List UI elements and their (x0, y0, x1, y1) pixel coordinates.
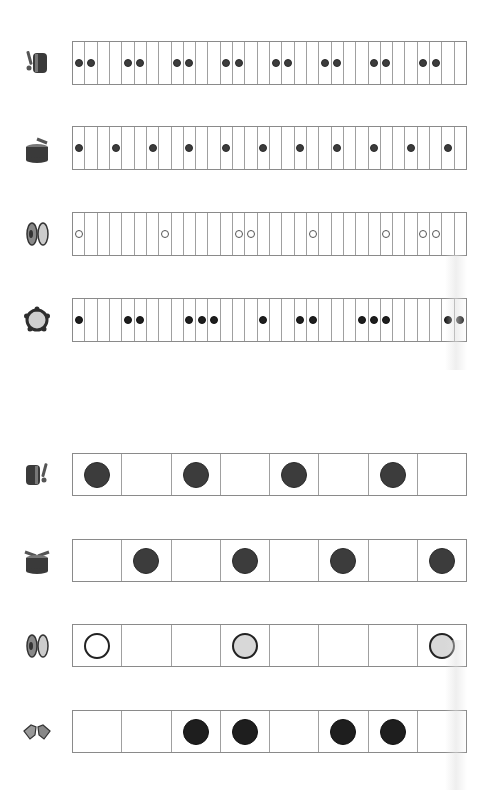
beat-cell (159, 127, 171, 169)
beat-cell (221, 540, 270, 581)
beat-cell (73, 42, 85, 84)
beat-grid (72, 212, 467, 256)
beat-cell (147, 42, 159, 84)
beat-cell (356, 42, 368, 84)
beat-cell (172, 540, 221, 581)
beat-cell (332, 127, 344, 169)
beat-dot-hollow (419, 230, 427, 238)
beat-dot-filled (380, 462, 406, 488)
beat-cell (381, 127, 393, 169)
beat-cell (344, 127, 356, 169)
beat-dot-filled (370, 144, 378, 152)
beat-dot-black (210, 316, 218, 324)
beat-cell (282, 42, 294, 84)
beat-dot-filled (136, 59, 144, 67)
beat-dot-filled (333, 59, 341, 67)
beat-cell (184, 213, 196, 255)
beat-cell (418, 625, 466, 666)
beat-dot-filled (284, 59, 292, 67)
beat-cell (430, 213, 442, 255)
beat-cell (221, 454, 270, 495)
beat-cell (319, 454, 368, 495)
beat-cell (98, 127, 110, 169)
beat-cell (270, 127, 282, 169)
beat-cell (332, 299, 344, 341)
beat-cell (110, 213, 122, 255)
snare-drum-icon (22, 546, 52, 576)
beat-dot-filled (185, 144, 193, 152)
beat-cell (393, 213, 405, 255)
beat-dot-filled (87, 59, 95, 67)
beat-dot-filled (75, 59, 83, 67)
beat-cell (319, 540, 368, 581)
beat-dot-hollow (432, 230, 440, 238)
beat-cell (196, 213, 208, 255)
beat-cell (369, 540, 418, 581)
beat-cell (184, 299, 196, 341)
beat-dot-filled (222, 59, 230, 67)
beat-cell (85, 42, 97, 84)
beat-cell (418, 42, 430, 84)
beat-dot-gray (429, 633, 455, 659)
beat-cell (418, 711, 466, 752)
beat-cell (258, 299, 270, 341)
beat-cell (270, 540, 319, 581)
beat-cell (73, 625, 122, 666)
beat-dot-hollow (382, 230, 390, 238)
beat-cell (369, 625, 418, 666)
beat-cell (455, 127, 466, 169)
beat-dot-hollow (309, 230, 317, 238)
beat-cell (307, 127, 319, 169)
beat-cell (73, 127, 85, 169)
beat-cell (405, 127, 417, 169)
beat-cell (122, 299, 134, 341)
beat-cell (73, 454, 122, 495)
beat-dot-filled (185, 59, 193, 67)
beat-cell (159, 213, 171, 255)
beat-cell (332, 42, 344, 84)
beat-cell (442, 299, 454, 341)
beat-cell (208, 299, 220, 341)
beat-cell (405, 213, 417, 255)
beat-dot-black (75, 316, 83, 324)
beat-cell (221, 625, 270, 666)
beat-dot-hollow (247, 230, 255, 238)
beat-cell (405, 42, 417, 84)
beat-cell (245, 127, 257, 169)
beat-cell (147, 299, 159, 341)
beat-cell (455, 213, 466, 255)
beat-dot-filled (333, 144, 341, 152)
beat-dot-filled (382, 59, 390, 67)
beat-cell (332, 213, 344, 255)
beat-cell (369, 42, 381, 84)
beat-cell (85, 127, 97, 169)
beat-cell (135, 299, 147, 341)
beat-dot-filled (370, 59, 378, 67)
beat-grid (72, 453, 467, 496)
beat-cell (307, 213, 319, 255)
beat-cell (110, 299, 122, 341)
beat-cell (122, 213, 134, 255)
beat-dot-filled (235, 59, 243, 67)
beat-cell (393, 127, 405, 169)
beat-dot-black (136, 316, 144, 324)
beat-cell (356, 213, 368, 255)
beat-cell (172, 625, 221, 666)
beat-cell (208, 127, 220, 169)
beat-grid (72, 624, 467, 667)
beat-dot-black (198, 316, 206, 324)
beat-cell (122, 625, 171, 666)
beat-cell (381, 299, 393, 341)
beat-cell (73, 540, 122, 581)
beat-dot-hollow (235, 230, 243, 238)
beat-cell (319, 711, 368, 752)
beat-dot-black (309, 316, 317, 324)
beat-cell (381, 213, 393, 255)
beat-dot-hollow (161, 230, 169, 238)
beat-cell (344, 42, 356, 84)
beat-cell (369, 299, 381, 341)
beat-cell (282, 127, 294, 169)
beat-dot-black (444, 316, 452, 324)
beat-cell (344, 213, 356, 255)
beat-cell (393, 299, 405, 341)
